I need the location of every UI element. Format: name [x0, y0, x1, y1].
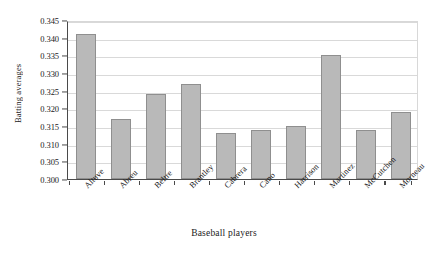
- y-axis-tick-labels: 0.3000.3050.3100.3150.3200.3250.3300.335…: [0, 0, 67, 200]
- bar: [146, 94, 166, 179]
- bar: [321, 55, 341, 179]
- plot-area: [67, 21, 418, 180]
- y-axis-tick-label: 0.325: [40, 87, 59, 97]
- y-axis-tick-label: 0.305: [40, 157, 59, 167]
- bar-chart: Batting averages 0.3000.3050.3100.3150.3…: [0, 0, 448, 256]
- bar: [111, 119, 131, 179]
- y-axis-tick-label: 0.345: [40, 16, 59, 26]
- bar: [391, 112, 411, 179]
- bar: [76, 34, 96, 179]
- x-axis-title: Baseball players: [0, 228, 448, 238]
- y-axis-tick-label: 0.330: [40, 69, 59, 79]
- y-axis-tick-label: 0.340: [40, 34, 59, 44]
- bar: [181, 84, 201, 179]
- y-axis-tick-label: 0.320: [40, 104, 59, 114]
- bar-series: [68, 22, 417, 179]
- y-axis-tick-label: 0.310: [40, 140, 59, 150]
- x-axis-tick-labels: AltuveAbreuBeltreBrantleyCabreraCanoHarr…: [67, 183, 418, 229]
- y-axis-tick-label: 0.315: [40, 122, 59, 132]
- y-axis-tick-label: 0.300: [40, 175, 59, 185]
- y-axis-tick-label: 0.335: [40, 51, 59, 61]
